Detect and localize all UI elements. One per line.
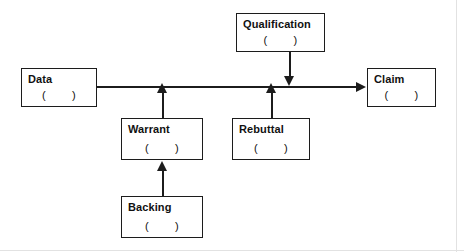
toulmin-diagram-canvas: Qualification ( ) Data ( ) Claim ( ) War… bbox=[0, 0, 464, 252]
page-border-bottom bbox=[0, 250, 464, 251]
node-claim-label: Claim bbox=[374, 73, 404, 85]
node-warrant-slot: ( ) bbox=[122, 142, 202, 154]
node-warrant[interactable]: Warrant ( ) bbox=[121, 118, 203, 160]
node-backing[interactable]: Backing ( ) bbox=[121, 196, 203, 238]
node-backing-label: Backing bbox=[128, 201, 172, 213]
node-rebuttal-slot: ( ) bbox=[233, 142, 309, 154]
node-claim-slot: ( ) bbox=[368, 89, 435, 101]
connector-backing-to-warrant bbox=[162, 170, 164, 196]
node-rebuttal-label: Rebuttal bbox=[239, 123, 284, 135]
arrowhead-backing-to-warrant bbox=[157, 161, 167, 171]
page-border-right bbox=[456, 0, 457, 252]
node-data-slot: ( ) bbox=[22, 89, 96, 101]
node-qualification[interactable]: Qualification ( ) bbox=[236, 13, 325, 52]
arrowhead-warrant-to-spine bbox=[157, 83, 167, 93]
connector-qualification-to-spine bbox=[289, 52, 291, 78]
connector-rebuttal-to-spine bbox=[271, 92, 273, 118]
node-qualification-slot: ( ) bbox=[237, 34, 324, 46]
arrowhead-qualification-to-spine bbox=[284, 76, 294, 86]
node-claim[interactable]: Claim ( ) bbox=[367, 68, 436, 107]
node-warrant-label: Warrant bbox=[128, 123, 170, 135]
node-qualification-label: Qualification bbox=[243, 18, 311, 30]
arrowhead-into-claim bbox=[356, 82, 366, 92]
node-backing-slot: ( ) bbox=[122, 220, 202, 232]
connector-warrant-to-spine bbox=[162, 92, 164, 118]
connector-data-to-claim bbox=[97, 86, 359, 88]
node-data-label: Data bbox=[28, 73, 52, 85]
node-data[interactable]: Data ( ) bbox=[21, 68, 97, 107]
node-rebuttal[interactable]: Rebuttal ( ) bbox=[232, 118, 310, 160]
arrowhead-rebuttal-to-spine bbox=[266, 83, 276, 93]
